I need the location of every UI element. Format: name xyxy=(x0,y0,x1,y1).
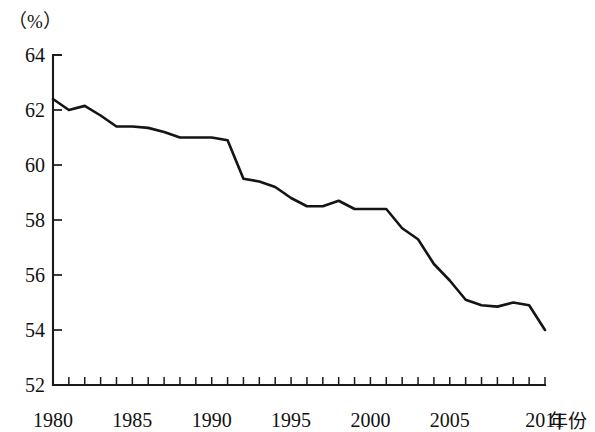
y-tick-label-52: 52 xyxy=(25,374,45,396)
x-tick-label-2000: 2000 xyxy=(350,409,390,431)
x-tick-label-1995: 1995 xyxy=(271,409,311,431)
y-tick-label-58: 58 xyxy=(25,209,45,231)
data-line-series xyxy=(53,99,545,330)
x-tick-label-1990: 1990 xyxy=(192,409,232,431)
x-axis-title: 年份 xyxy=(549,411,587,432)
data-series-group xyxy=(53,99,545,330)
y-axis-unit-label: （%） xyxy=(8,11,62,32)
y-tick-label-54: 54 xyxy=(25,319,45,341)
y-tick-label-56: 56 xyxy=(25,264,45,286)
chart-container: 52545658606264 1980198519901995200020052… xyxy=(0,0,595,432)
x-tick-label-1980: 1980 xyxy=(33,409,73,431)
y-axis-tick-labels: 52545658606264 xyxy=(25,44,45,396)
y-tick-label-62: 62 xyxy=(25,99,45,121)
chart-axes xyxy=(53,55,545,385)
x-tick-label-2005: 2005 xyxy=(430,409,470,431)
chart-tick-marks xyxy=(53,55,545,385)
y-tick-label-60: 60 xyxy=(25,154,45,176)
line-chart: 52545658606264 1980198519901995200020052… xyxy=(0,0,595,432)
x-axis-tick-labels: 1980198519901995200020052011 xyxy=(33,409,565,431)
x-tick-label-1985: 1985 xyxy=(112,409,152,431)
y-tick-label-64: 64 xyxy=(25,44,45,66)
